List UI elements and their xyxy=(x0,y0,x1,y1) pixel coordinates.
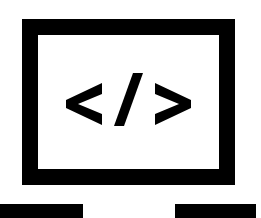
code-brackets-icon xyxy=(66,73,191,126)
laptop-code-icon: Code on laptop screen xyxy=(0,0,261,218)
slash-glyph xyxy=(114,73,143,126)
less-than-glyph xyxy=(66,83,102,125)
laptop-base-icon xyxy=(0,204,256,218)
base-bar-left xyxy=(0,204,83,218)
greater-than-glyph xyxy=(155,83,191,125)
base-bar-right xyxy=(175,204,256,218)
